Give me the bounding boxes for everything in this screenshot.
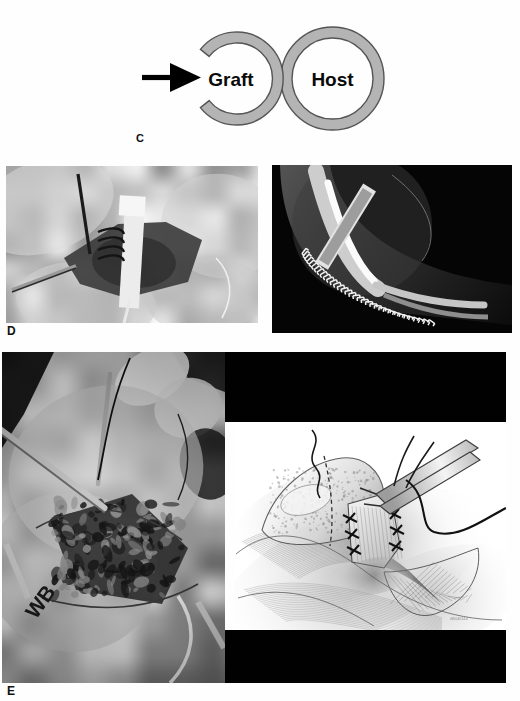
graft-host-diagram: Graft Host: [130, 18, 395, 144]
graft-ring-label: Graft: [208, 69, 254, 90]
panel-label-d: D: [7, 325, 16, 337]
operative-photo-soft-tissue-repair: [2, 352, 225, 683]
illustration-bottom-matte: [225, 630, 506, 683]
operative-photo-graft-fixation: [6, 166, 258, 323]
lateral-radiograph-elbow: [272, 165, 512, 333]
figure-root: Graft Host C D ill/004014-0 E: [0, 0, 520, 701]
panel-e: ill/004014-0 E: [0, 345, 520, 701]
illustration-tendon-repair: [234, 422, 506, 630]
illustration-top-matte: [225, 352, 506, 422]
artist-credit: ill/004014-0: [450, 617, 468, 621]
panel-label-e: E: [7, 685, 15, 697]
panel-d: D: [0, 160, 520, 345]
panel-label-c: C: [136, 133, 144, 144]
panel-c: Graft Host C: [0, 0, 520, 160]
host-ring-label: Host: [311, 69, 354, 90]
